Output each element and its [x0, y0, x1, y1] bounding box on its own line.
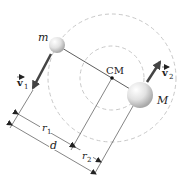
svg-text:1: 1: [24, 83, 28, 91]
svg-text:2: 2: [87, 156, 91, 164]
cm-orbit-diagram: m M CM v 1 v 2 r 1 r 2 d: [0, 0, 185, 189]
extension-line-M: [95, 106, 133, 173]
large-mass-sphere: [127, 82, 153, 108]
label-large-mass: M: [156, 94, 169, 107]
svg-text:v: v: [161, 67, 169, 78]
extension-line-m: [10, 90, 33, 128]
label-velocity-1: v 1: [16, 77, 28, 91]
label-center-of-mass: CM: [106, 65, 124, 76]
extension-line-cm: [71, 78, 112, 150]
label-d: d: [50, 139, 57, 152]
separation-line: [57, 45, 140, 95]
label-velocity-2: v 2: [161, 67, 173, 81]
center-of-mass-point: [110, 76, 114, 80]
small-mass-sphere: [49, 37, 65, 53]
svg-text:v: v: [16, 77, 24, 88]
svg-text:1: 1: [47, 128, 51, 136]
velocity-arrow-2: [147, 62, 160, 82]
label-small-mass: m: [38, 31, 48, 44]
velocity-arrow-1: [33, 54, 51, 88]
svg-text:2: 2: [169, 73, 173, 81]
